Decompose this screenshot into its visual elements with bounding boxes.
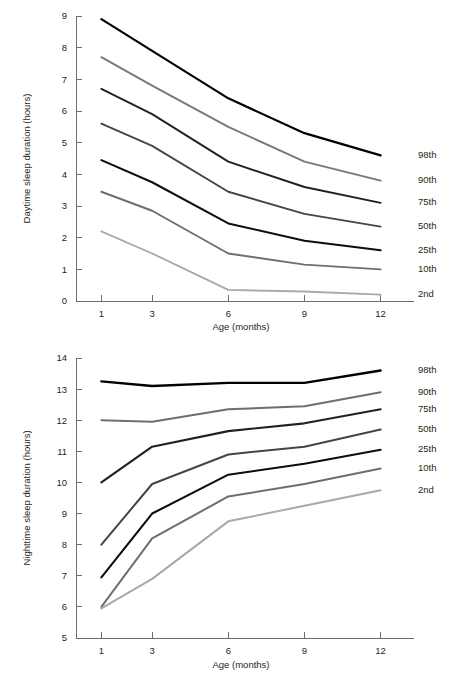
nighttime-y-tick-label: 5 (62, 632, 67, 643)
nighttime-x-tick-label: 3 (150, 645, 155, 656)
nighttime-series-line-50th (101, 430, 380, 545)
nighttime-series-label-98th: 98th (418, 364, 437, 375)
nighttime-y-tick-label: 9 (62, 508, 67, 519)
daytime-y-tick-label: 4 (62, 169, 67, 180)
daytime-series-label-90th: 90th (418, 174, 437, 185)
daytime-sleep-chart: 0123456789136912Age (months)Daytime slee… (0, 0, 470, 341)
nighttime-series-label-25th: 25th (418, 443, 437, 454)
daytime-y-axis-title: Daytime sleep duration (hours) (21, 94, 32, 224)
nighttime-x-tick-label: 12 (375, 645, 386, 656)
daytime-series-label-98th: 98th (418, 149, 437, 160)
nighttime-y-axis-title: Nighttime sleep duration (hours) (21, 430, 32, 565)
nighttime-series-label-50th: 50th (418, 423, 437, 434)
daytime-series-label-50th: 50th (418, 220, 437, 231)
page-root: 0123456789136912Age (months)Daytime slee… (0, 0, 470, 683)
daytime-series-label-10th: 10th (418, 263, 437, 274)
nighttime-series-line-10th (101, 468, 380, 606)
daytime-series-line-25th (101, 160, 380, 250)
daytime-chart-canvas: 0123456789136912Age (months)Daytime slee… (21, 10, 437, 332)
daytime-series-line-2nd (101, 231, 380, 294)
nighttime-y-tick-label: 13 (56, 384, 67, 395)
daytime-series-line-75th (101, 89, 380, 203)
nighttime-series-label-75th: 75th (418, 403, 437, 414)
daytime-y-tick-label: 3 (62, 200, 67, 211)
daytime-x-tick-label: 12 (375, 308, 386, 319)
daytime-x-tick-label: 3 (150, 308, 155, 319)
nighttime-chart-svg: 567891011121314136912Age (months)Nightti… (0, 341, 470, 683)
nighttime-sleep-chart: 567891011121314136912Age (months)Nightti… (0, 341, 470, 683)
nighttime-series-line-25th (101, 450, 380, 578)
daytime-series-label-75th: 75th (418, 196, 437, 207)
daytime-series-line-50th (101, 124, 380, 227)
daytime-y-tick-label: 6 (62, 105, 67, 116)
nighttime-x-tick-label: 6 (226, 645, 231, 656)
daytime-series-line-90th (101, 57, 380, 181)
daytime-series-label-25th: 25th (418, 244, 437, 255)
nighttime-x-tick-label: 1 (99, 645, 104, 656)
daytime-x-tick-label: 1 (99, 308, 104, 319)
nighttime-series-label-2nd: 2nd (418, 484, 434, 495)
daytime-y-tick-label: 0 (62, 295, 67, 306)
daytime-y-tick-label: 7 (62, 74, 67, 85)
nighttime-y-tick-label: 6 (62, 601, 67, 612)
nighttime-series-label-90th: 90th (418, 386, 437, 397)
nighttime-x-axis-title: Age (months) (212, 659, 269, 670)
daytime-series-label-2nd: 2nd (418, 288, 434, 299)
nighttime-y-tick-label: 14 (56, 352, 67, 363)
nighttime-series-line-75th (101, 409, 380, 482)
daytime-y-tick-label: 8 (62, 42, 67, 53)
daytime-series-line-98th (101, 19, 380, 155)
nighttime-y-tick-label: 10 (56, 477, 67, 488)
daytime-x-axis-title: Age (months) (212, 321, 269, 332)
daytime-x-tick-label: 9 (302, 308, 307, 319)
nighttime-series-label-10th: 10th (418, 462, 437, 473)
daytime-y-tick-label: 2 (62, 232, 67, 243)
daytime-series-line-10th (101, 192, 380, 270)
nighttime-chart-canvas: 567891011121314136912Age (months)Nightti… (21, 352, 437, 670)
daytime-chart-svg: 0123456789136912Age (months)Daytime slee… (0, 0, 470, 341)
nighttime-y-tick-label: 7 (62, 570, 67, 581)
daytime-y-tick-label: 1 (62, 264, 67, 275)
nighttime-y-tick-label: 8 (62, 539, 67, 550)
nighttime-y-tick-label: 11 (57, 446, 67, 457)
daytime-x-tick-label: 6 (226, 308, 231, 319)
nighttime-series-line-98th (101, 370, 380, 386)
nighttime-y-tick-label: 12 (56, 415, 67, 426)
daytime-y-tick-label: 5 (62, 137, 67, 148)
daytime-y-tick-label: 9 (62, 10, 67, 21)
nighttime-x-tick-label: 9 (302, 645, 307, 656)
